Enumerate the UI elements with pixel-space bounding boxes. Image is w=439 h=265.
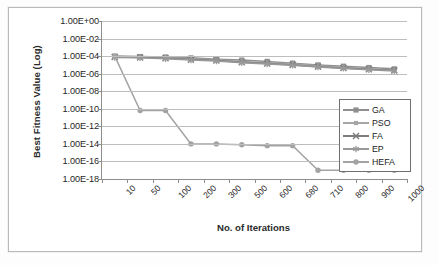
x-axis-title: No. of Iterations (101, 222, 406, 233)
y-tick-label: 1.00E-10 (63, 104, 100, 114)
legend-label: HEFA (369, 157, 395, 167)
y-tick-label: 1.00E-02 (63, 34, 100, 44)
legend-label: GA (369, 105, 385, 115)
data-point (353, 133, 359, 139)
y-axis-tick (98, 109, 102, 110)
chart-legend: GAPSOFAEPHEFA (339, 99, 411, 172)
gridline (102, 21, 407, 22)
y-axis-tick (98, 74, 102, 75)
x-tick-label: 600 (277, 183, 294, 200)
y-tick-label: 1.00E-04 (63, 51, 100, 61)
legend-label: EP (369, 144, 384, 154)
x-axis-tick (407, 179, 408, 183)
gridline (102, 91, 407, 92)
x-tick-label: 710 (328, 183, 345, 200)
gridline (102, 74, 407, 75)
x-tick-label: 1000 (406, 183, 427, 204)
y-axis-tick (98, 126, 102, 127)
y-tick-label: 1.00E+00 (60, 16, 99, 26)
y-axis-tick (98, 39, 102, 40)
y-tick-label: 1.00E-06 (63, 69, 100, 79)
x-tick-label: 50 (149, 183, 163, 197)
data-point (315, 168, 320, 173)
y-tick-label: 1.00E-14 (63, 139, 100, 149)
y-axis-tick (98, 144, 102, 145)
gridline (102, 39, 407, 40)
x-tick-label: 10 (124, 183, 138, 197)
gridline (102, 56, 407, 57)
x-tick-label: 800 (354, 183, 371, 200)
legend-marker-icon (343, 117, 369, 128)
legend-item-ep[interactable]: EP (343, 142, 406, 155)
data-point (353, 159, 358, 164)
y-tick-label: 1.00E-08 (63, 86, 100, 96)
y-tick-label: 1.00E-18 (63, 174, 100, 184)
legend-label: PSO (369, 118, 391, 128)
legend-item-hefa[interactable]: HEFA (343, 155, 406, 168)
legend-marker-icon (343, 130, 369, 141)
legend-item-fa[interactable]: FA (343, 129, 406, 142)
y-axis-tick (98, 21, 102, 22)
chart-frame: Best Fitness Value (Log) 1.00E+001.00E-0… (8, 7, 422, 252)
x-axis-tick-labels: 10501002003005006006807108009001000 (101, 181, 406, 215)
x-tick-label: 500 (252, 183, 269, 200)
x-tick-label: 680 (303, 183, 320, 200)
legend-item-pso[interactable]: PSO (343, 116, 406, 129)
x-tick-label: 900 (379, 183, 396, 200)
y-tick-label: 1.00E-12 (63, 121, 100, 131)
x-tick-label: 200 (201, 183, 218, 200)
legend-marker-icon (343, 104, 369, 115)
y-axis-tick (98, 161, 102, 162)
y-axis-tick (98, 91, 102, 92)
y-tick-label: 1.00E-16 (63, 156, 100, 166)
legend-marker-icon (343, 143, 369, 154)
data-point (353, 146, 359, 152)
x-tick-label: 100 (176, 183, 193, 200)
y-axis-tick-labels: 1.00E+001.00E-021.00E-041.00E-061.00E-08… (31, 21, 99, 179)
legend-marker-icon (343, 156, 369, 167)
data-point (353, 107, 358, 112)
data-point (354, 121, 358, 125)
chart-page: Best Fitness Value (Log) 1.00E+001.00E-0… (0, 0, 439, 265)
x-tick-label: 300 (227, 183, 244, 200)
legend-item-ga[interactable]: GA (343, 103, 406, 116)
chart-plot-container: Best Fitness Value (Log) 1.00E+001.00E-0… (9, 8, 421, 251)
legend-label: FA (369, 131, 383, 141)
series-line (115, 57, 395, 71)
y-axis-tick (98, 56, 102, 57)
